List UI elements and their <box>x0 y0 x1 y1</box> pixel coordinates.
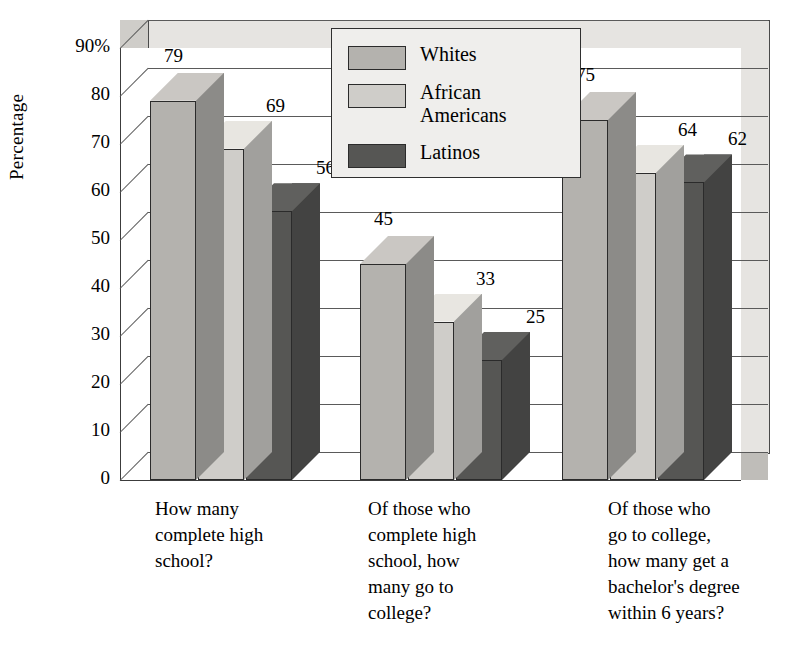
bar-front-face <box>150 101 196 480</box>
bar-value-label: 62 <box>728 128 747 150</box>
legend-label: Whites <box>420 43 477 66</box>
bar <box>360 236 434 480</box>
y-tick-label: 60 <box>36 179 110 201</box>
bar-value-label: 33 <box>476 268 495 290</box>
bar-value-label: 25 <box>526 306 545 328</box>
y-tick-label: 50 <box>36 227 110 249</box>
bar-side-face <box>454 294 482 480</box>
legend-label: Latinos <box>420 141 480 164</box>
bar-side-face <box>244 121 272 480</box>
legend-label: AfricanAmericans <box>420 81 507 127</box>
bar-value-label: 79 <box>164 45 183 67</box>
bar <box>150 73 224 480</box>
bar-side-face <box>704 154 732 480</box>
legend-swatch <box>348 46 406 70</box>
y-tick-label: 20 <box>36 371 110 393</box>
y-tick-label: 10 <box>36 419 110 441</box>
bar-side-face <box>608 92 636 480</box>
bar-value-label: 69 <box>266 95 285 117</box>
y-tick-label: 40 <box>36 275 110 297</box>
legend: WhitesAfricanAmericansLatinos <box>331 28 581 178</box>
bar-side-face <box>406 236 434 480</box>
legend-item: Latinos <box>348 141 480 168</box>
legend-swatch <box>348 144 406 168</box>
chart-figure: Percentage 90%80706050403020100 56697925… <box>0 0 790 657</box>
bar-side-face <box>656 145 684 480</box>
y-tick-label: 70 <box>36 131 110 153</box>
legend-item: Whites <box>348 43 477 70</box>
y-tick-label: 90% <box>36 35 110 57</box>
gridline <box>148 20 768 21</box>
bar-value-label: 64 <box>678 119 697 141</box>
category-label: Of those whogo to college,how many get a… <box>608 496 740 626</box>
y-tick-label: 0 <box>36 467 110 489</box>
legend-item: AfricanAmericans <box>348 81 507 127</box>
category-label: How manycomplete highschool? <box>155 496 263 574</box>
bar-side-face <box>196 73 224 480</box>
y-tick-label: 30 <box>36 323 110 345</box>
legend-swatch <box>348 84 406 108</box>
bar-side-face <box>292 183 320 480</box>
bar-value-label: 45 <box>374 208 393 230</box>
y-tick-label: 80 <box>36 83 110 105</box>
bar-front-face <box>360 264 406 480</box>
y-axis-label: Percentage <box>6 150 28 180</box>
category-label: Of those whocomplete highschool, howmany… <box>368 496 476 626</box>
